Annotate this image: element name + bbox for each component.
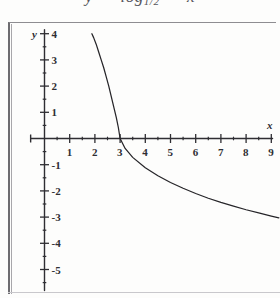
log-curve bbox=[92, 34, 279, 218]
y-axis-tick-label: -1 bbox=[52, 160, 61, 171]
y-axis-label: y bbox=[32, 29, 37, 40]
y-axis-tick-label: -4 bbox=[52, 238, 61, 249]
x-axis-tick-label: 1 bbox=[67, 147, 73, 158]
y-axis-tick-label: 3 bbox=[52, 55, 58, 66]
x-axis-tick-label: 2 bbox=[92, 147, 98, 158]
y-axis-tick-label: -5 bbox=[52, 265, 61, 276]
x-axis-tick-label: 7 bbox=[218, 147, 224, 158]
y-axis-tick-label: 2 bbox=[52, 81, 58, 92]
x-axis-tick-label: 4 bbox=[142, 147, 148, 158]
x-axis-tick-label: 6 bbox=[193, 147, 199, 158]
y-axis-tick-label: 4 bbox=[52, 29, 58, 40]
y-axis-tick-label: -2 bbox=[52, 186, 61, 197]
y-axis-tick-label: 1 bbox=[52, 107, 58, 118]
y-axis-tick-label: -3 bbox=[52, 212, 61, 223]
graph-plot-area: y x 1234567894321-1-2-3-4-5 bbox=[0, 0, 280, 298]
x-axis-tick-label: 5 bbox=[168, 147, 174, 158]
x-axis-tick-label: 8 bbox=[243, 147, 249, 158]
x-axis-tick-label: 9 bbox=[268, 147, 274, 158]
coordinate-plane-svg bbox=[0, 0, 280, 298]
x-axis-tick-label: 3 bbox=[117, 147, 123, 158]
x-axis-label: x bbox=[267, 120, 273, 131]
